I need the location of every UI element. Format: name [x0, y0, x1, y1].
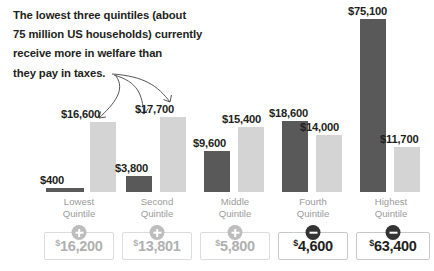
quintile-group-highest: $75,100 $11,700	[352, 0, 430, 192]
bar-welfare-lowest	[90, 122, 116, 192]
bar-welfare-highest	[394, 147, 420, 192]
bars-row	[196, 0, 274, 192]
bars-row	[40, 0, 118, 192]
cat-line-1: Lowest	[40, 196, 118, 208]
category-label-second-text: Second Quintile	[118, 196, 196, 221]
net-value-fourth: 4,600	[298, 238, 333, 254]
bar-value-welfare-second: $17,700	[135, 103, 174, 115]
cat-line-1: Fourth	[274, 196, 352, 208]
bar-value-welfare-fourth: $14,000	[300, 121, 339, 133]
cat-line-1: Middle	[196, 196, 274, 208]
bar-value-welfare-middle: $15,400	[222, 113, 261, 125]
minus-circle-icon	[306, 225, 321, 240]
bars-row	[274, 0, 352, 192]
plus-circle-icon	[150, 225, 165, 240]
bar-taxes-lowest	[46, 188, 84, 192]
cat-line-1: Second	[118, 196, 196, 208]
bar-welfare-fourth	[316, 135, 342, 192]
cat-line-2: Quintile	[40, 208, 118, 220]
cat-line-1: Highest	[352, 196, 430, 208]
cat-line-2: Quintile	[352, 208, 430, 220]
quintile-group-middle: $9,600 $15,400	[196, 0, 274, 192]
minus-circle-icon	[386, 225, 401, 240]
category-label-lowest-text: Lowest Quintile	[40, 196, 118, 221]
bar-taxes-second	[126, 176, 152, 192]
quintile-group-fourth: $18,600 $14,000	[274, 0, 352, 192]
net-box-second: $13,801	[122, 232, 192, 260]
bar-taxes-highest	[360, 19, 386, 192]
bar-welfare-middle	[238, 127, 264, 192]
cat-line-2: Quintile	[118, 208, 196, 220]
bar-taxes-middle	[204, 151, 230, 192]
category-label-middle-text: Middle Quintile	[196, 196, 274, 221]
bar-value-welfare-highest: $11,700	[380, 133, 418, 145]
net-value-highest: 63,400	[374, 238, 417, 254]
net-amount-highest: $63,400	[369, 239, 416, 254]
category-label-fourth-text: Fourth Quintile	[274, 196, 352, 221]
bar-chart-plot-area: $400 $16,600 $3,800 $17,700 $9,600 $15,4…	[0, 0, 434, 192]
bar-value-welfare-lowest: $16,600	[61, 108, 100, 120]
plus-circle-icon	[228, 225, 243, 240]
quintile-group-second: $3,800 $17,700	[118, 0, 196, 192]
bar-value-taxes-highest: $75,100	[348, 5, 387, 17]
bar-value-taxes-middle: $9,600	[193, 137, 226, 149]
bar-value-taxes-second: $3,800	[115, 162, 148, 174]
net-value-lowest: 16,200	[60, 238, 103, 254]
bar-value-taxes-fourth: $18,600	[269, 107, 308, 119]
cat-line-2: Quintile	[274, 208, 352, 220]
net-box-middle: $5,800	[200, 232, 270, 260]
net-amount-fourth: $4,600	[293, 239, 333, 254]
quintile-group-lowest: $400 $16,600	[40, 0, 118, 192]
net-box-fourth: $4,600	[278, 232, 348, 260]
net-value-middle: 5,800	[220, 238, 255, 254]
cat-line-2: Quintile	[196, 208, 274, 220]
bar-welfare-second	[160, 117, 186, 192]
net-amount-lowest: $16,200	[55, 239, 102, 254]
bar-value-taxes-lowest: $400	[40, 174, 64, 186]
net-amount-second: $13,801	[133, 239, 180, 254]
bars-row	[352, 0, 430, 192]
net-amount-middle: $5,800	[215, 239, 255, 254]
plus-circle-icon	[72, 225, 87, 240]
net-box-highest: $63,400	[356, 232, 430, 260]
net-value-second: 13,801	[138, 238, 181, 254]
category-label-highest-text: Highest Quintile	[352, 196, 430, 221]
net-box-lowest: $16,200	[44, 232, 114, 260]
